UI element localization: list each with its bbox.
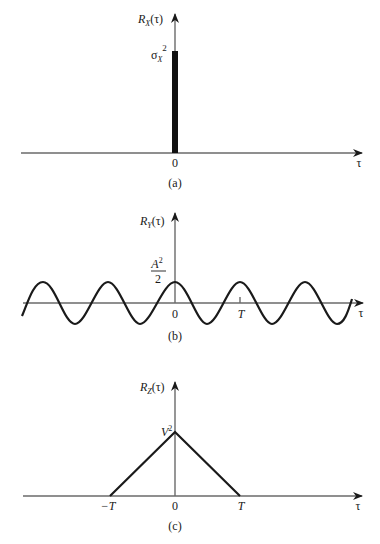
tick-T-b: T bbox=[238, 307, 246, 321]
impulse-bar bbox=[172, 51, 178, 153]
panel-b: RY(τ) A2 2 0 T τ (b) bbox=[22, 213, 364, 343]
tick-zero-b: 0 bbox=[172, 307, 178, 321]
svg-text:2: 2 bbox=[155, 272, 161, 286]
value-label-a: σX2 bbox=[151, 43, 167, 64]
xlabel-c: τ bbox=[356, 499, 361, 513]
figure-canvas: RX(τ) σX2 0 τ (a) RY(τ) A2 2 0 T τ (b) R… bbox=[0, 0, 380, 544]
xlabel-a: τ bbox=[357, 156, 362, 170]
tick-negT-c: −T bbox=[101, 499, 117, 513]
panel-a: RX(τ) σX2 0 τ (a) bbox=[21, 12, 362, 190]
tick-zero-c: 0 bbox=[172, 499, 178, 513]
caption-c: (c) bbox=[168, 519, 181, 533]
value-label-b: A2 2 bbox=[150, 256, 166, 286]
xlabel-b: τ bbox=[359, 306, 364, 320]
ylabel-b: RY(τ) bbox=[139, 214, 165, 230]
ylabel-a: RX(τ) bbox=[137, 12, 163, 28]
caption-b: (b) bbox=[168, 329, 182, 343]
panel-c: RZ(τ) V2 −T 0 T τ (c) bbox=[23, 380, 362, 533]
svg-text:A2: A2 bbox=[150, 256, 162, 271]
ylabel-c: RZ(τ) bbox=[139, 380, 165, 396]
caption-a: (a) bbox=[168, 176, 181, 190]
tick-T-c: T bbox=[238, 499, 246, 513]
tick-zero-a: 0 bbox=[172, 156, 178, 170]
